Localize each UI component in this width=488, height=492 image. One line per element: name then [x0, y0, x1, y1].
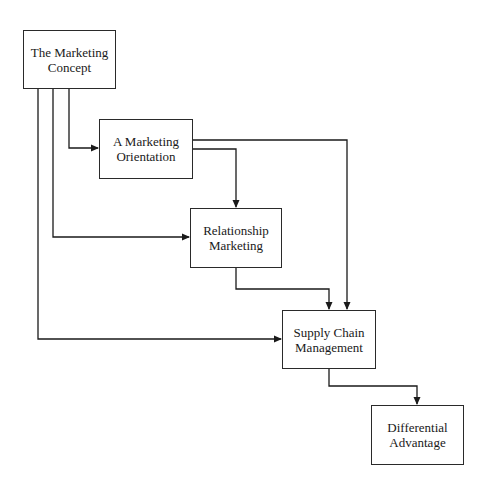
node-differential-advantage: Differential Advantage	[371, 405, 464, 465]
node-supply-chain-management: Supply Chain Management	[282, 310, 376, 369]
node-label: A Marketing Orientation	[113, 134, 179, 164]
node-label: Relationship Marketing	[203, 223, 269, 253]
node-label: The Marketing Concept	[31, 45, 109, 75]
node-label: Supply Chain Management	[293, 325, 364, 355]
edge-orientation-to-relationship	[192, 149, 236, 207]
edge-concept-to-orientation	[69, 88, 98, 148]
node-marketing-orientation: A Marketing Orientation	[99, 119, 193, 179]
node-marketing-concept: The Marketing Concept	[23, 30, 116, 89]
node-relationship-marketing: Relationship Marketing	[190, 208, 282, 268]
edge-supply-chain-to-differential	[329, 368, 417, 404]
node-label: Differential Advantage	[387, 420, 447, 450]
edge-relationship-to-supply-chain	[236, 267, 329, 309]
